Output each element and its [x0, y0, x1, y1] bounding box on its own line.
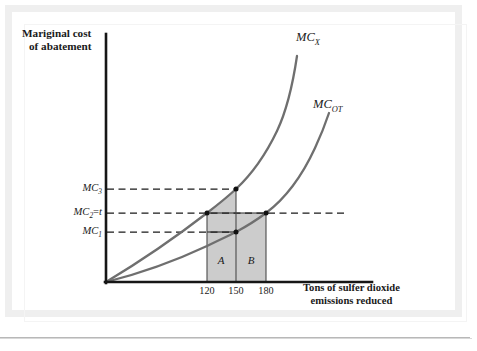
x-tick-label-150: 150	[219, 285, 253, 297]
curve-label-mc-ot-subscript: OT	[332, 105, 343, 114]
y-tick-label-mc3-base: MC	[82, 182, 98, 193]
y-tick-label-mc1-base: MC	[82, 225, 98, 236]
y-tick-label-mc3: MC3	[36, 182, 102, 197]
region-label-b: B	[241, 254, 261, 267]
y-axis-title-line1: Mariginal cost	[22, 27, 91, 39]
figure-root: Mariginal cost of abatement Tons of sulf…	[0, 0, 477, 351]
region-label-a: A	[211, 254, 231, 267]
y-tick-label-mc3-subscript: 3	[98, 187, 102, 196]
y-tick-label-mc1: MC1	[36, 225, 102, 240]
y-axis-title-line2: of abatement	[22, 40, 91, 53]
curve-label-mc-x: MCX	[296, 30, 320, 47]
curve-label-mc-x-base: MC	[296, 30, 315, 44]
x-tick-label-180: 180	[249, 285, 283, 297]
x-axis-title-line2: emissions reduced	[303, 295, 400, 308]
curve-label-mc-x-subscript: X	[315, 38, 320, 47]
point-mcx-at-120	[205, 211, 210, 216]
y-axis-title: Mariginal cost of abatement	[22, 27, 91, 53]
curve-label-mc-ot: MCOT	[313, 97, 342, 114]
curve-label-mc-ot-base: MC	[313, 97, 332, 111]
x-axis-title-line1: Tons of sulfer dioxide	[303, 282, 400, 293]
y-tick-label-mc2-base: MC	[74, 206, 90, 217]
y-tick-label-mc1-subscript: 1	[98, 230, 102, 239]
y-tick-label-mc2-variable: t	[99, 206, 102, 217]
point-mcot-at-150	[234, 230, 239, 235]
point-mcx-at-150	[234, 187, 239, 192]
point-mcot-at-180	[264, 211, 269, 216]
y-tick-label-mc2-t: MC2=t	[36, 206, 102, 221]
x-axis-title: Tons of sulfer dioxide emissions reduced	[303, 282, 400, 307]
